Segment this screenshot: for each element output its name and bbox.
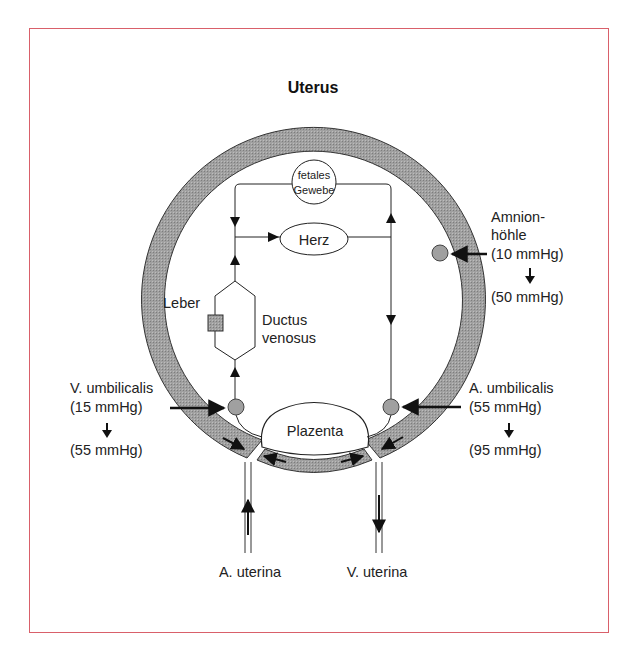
v-umbilicalis-label: V. umbilicalis: [70, 380, 153, 396]
fetal-circulation: [215, 184, 391, 399]
v-umbilicalis-pressure-from: (15 mmHg): [70, 399, 143, 415]
amnion-label-line2: höhle: [491, 227, 526, 243]
diagram-title: Uterus: [288, 79, 339, 96]
a-umbilicalis-label: A. umbilicalis: [469, 380, 554, 396]
fetal-tissue-line1: fetales: [298, 169, 331, 181]
a-uterina-vessel: [245, 462, 251, 553]
arrow-down-icon: [504, 430, 514, 438]
amnion-label-line1: Amnion-: [491, 209, 545, 225]
heart-node: Herz: [280, 223, 348, 255]
fetal-tissue-node: fetales Gewebe: [292, 160, 336, 204]
v-uterina-vessel: [376, 462, 382, 553]
liver-label: Leber: [163, 295, 200, 311]
ductus-label-line1: Ductus: [262, 312, 307, 328]
v-uterina-label: V. uterina: [347, 564, 409, 580]
a-umbilicalis-pressure-to: (95 mmHg): [469, 442, 542, 458]
a-uterina-label: A. uterina: [219, 564, 282, 580]
liver-icon: [208, 315, 223, 331]
ductus-label-line2: venosus: [262, 330, 316, 346]
placenta: Plazenta: [261, 403, 368, 456]
amnion-probe-icon: [432, 245, 448, 261]
a-umbilicalis-probe-icon: [383, 399, 399, 415]
amnion-pressure-to: (50 mmHg): [491, 289, 564, 305]
a-umbilicalis-pressure-from: (55 mmHg): [469, 399, 542, 415]
v-umbilicalis-probe-icon: [228, 399, 244, 415]
placenta-label: Plazenta: [287, 423, 344, 439]
heart-label: Herz: [299, 232, 330, 248]
v-umbilicalis-pressure-to: (55 mmHg): [70, 442, 143, 458]
arrow-down-icon: [102, 430, 112, 438]
fetal-tissue-line2: Gewebe: [294, 184, 335, 196]
uterus-circulation-diagram: Uterus Plazenta: [0, 0, 627, 650]
amnion-pressure-from: (10 mmHg): [491, 246, 564, 262]
arrow-down-icon: [525, 276, 535, 284]
